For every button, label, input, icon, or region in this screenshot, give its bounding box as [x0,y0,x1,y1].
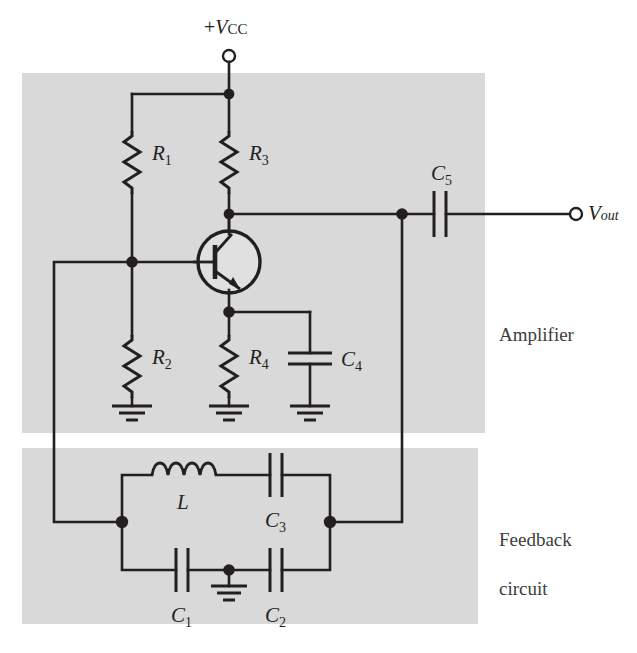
label-vcc-plus: + [204,16,215,38]
label-L: L [176,490,189,514]
label-vcc-sub: CC [228,21,248,37]
panel-label-feedback-line1: Feedback [499,528,572,552]
panel-label-feedback-line2: circuit [499,577,572,601]
label-vout-sub: out [601,208,619,223]
panel-label-amplifier: Amplifier [499,323,574,347]
label-supply-vcc: +VCC [204,16,248,39]
label-vcc-v: V [215,16,227,38]
figure-canvas: R1 R3 R2 R4 C4 C5 L C3 C1 C2 +VCC Vout A… [0,0,637,653]
panel-label-feedback: Feedback circuit [499,504,572,626]
label-vout-v: V [588,201,601,225]
label-output-vout: Vout [588,201,619,226]
output-terminal [570,208,582,220]
